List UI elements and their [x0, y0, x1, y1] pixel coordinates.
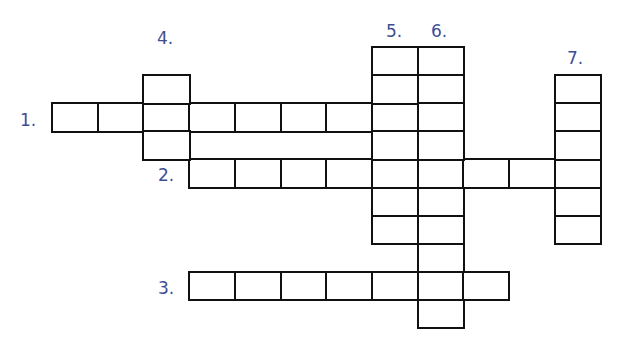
crossword-cell[interactable]	[554, 187, 602, 218]
crossword-cell[interactable]	[234, 102, 282, 133]
crossword-cell[interactable]	[97, 102, 145, 133]
crossword-grid: 1.2.3.4.5.6.7.	[0, 0, 631, 356]
crossword-cell[interactable]	[417, 299, 465, 330]
crossword-cell[interactable]	[188, 102, 236, 133]
crossword-cell[interactable]	[234, 271, 282, 302]
crossword-cell[interactable]	[417, 271, 465, 302]
crossword-cell[interactable]	[417, 74, 465, 105]
crossword-cell[interactable]	[371, 102, 419, 133]
clue-number-down: 7.	[567, 50, 583, 67]
crossword-cell[interactable]	[417, 243, 465, 274]
crossword-cell[interactable]	[462, 158, 510, 189]
crossword-cell[interactable]	[325, 102, 373, 133]
clue-number-across: 3.	[158, 280, 174, 297]
crossword-cell[interactable]	[371, 74, 419, 105]
crossword-cell[interactable]	[508, 158, 556, 189]
crossword-cell[interactable]	[371, 215, 419, 246]
crossword-cell[interactable]	[234, 158, 282, 189]
clue-number-down: 4.	[157, 30, 173, 47]
crossword-cell[interactable]	[417, 187, 465, 218]
crossword-cell[interactable]	[417, 46, 465, 77]
clue-number-across: 1.	[20, 112, 36, 129]
crossword-cell[interactable]	[462, 271, 510, 302]
crossword-cell[interactable]	[325, 158, 373, 189]
crossword-cell[interactable]	[280, 102, 328, 133]
crossword-cell[interactable]	[142, 102, 190, 133]
crossword-cell[interactable]	[554, 215, 602, 246]
crossword-cell[interactable]	[554, 74, 602, 105]
clue-number-across: 2.	[158, 167, 174, 184]
crossword-cell[interactable]	[371, 158, 419, 189]
crossword-cell[interactable]	[371, 46, 419, 77]
crossword-cell[interactable]	[554, 158, 602, 189]
crossword-cell[interactable]	[325, 271, 373, 302]
crossword-cell[interactable]	[188, 158, 236, 189]
crossword-cell[interactable]	[371, 187, 419, 218]
crossword-cell[interactable]	[142, 74, 190, 105]
crossword-cell[interactable]	[371, 271, 419, 302]
crossword-cell[interactable]	[142, 130, 190, 161]
crossword-cell[interactable]	[188, 271, 236, 302]
crossword-cell[interactable]	[280, 158, 328, 189]
crossword-cell[interactable]	[280, 271, 328, 302]
crossword-cell[interactable]	[417, 215, 465, 246]
crossword-cell[interactable]	[554, 130, 602, 161]
clue-number-down: 6.	[431, 23, 447, 40]
clue-number-down: 5.	[386, 23, 402, 40]
crossword-cell[interactable]	[417, 158, 465, 189]
crossword-cell[interactable]	[554, 102, 602, 133]
crossword-cell[interactable]	[371, 130, 419, 161]
crossword-cell[interactable]	[417, 102, 465, 133]
crossword-cell[interactable]	[51, 102, 99, 133]
crossword-cell[interactable]	[417, 130, 465, 161]
